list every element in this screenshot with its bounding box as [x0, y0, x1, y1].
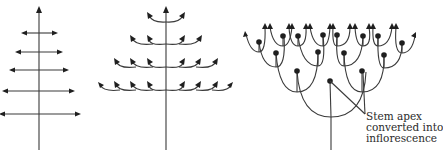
annotation-line-3: inflorescence [366, 133, 443, 144]
arrow-right-icon [75, 112, 81, 117]
apex-arrow-icon [36, 6, 42, 13]
arrow-right-icon [57, 50, 63, 55]
arrow-left-icon [21, 31, 27, 36]
branch-level-5 [0, 112, 81, 117]
leader-line [363, 73, 365, 114]
arrow-right-icon [52, 31, 58, 36]
arrow-icon [147, 12, 153, 19]
arrow-right-icon [63, 68, 69, 73]
root-arc [297, 71, 366, 117]
leader-line [330, 81, 365, 114]
arrow-left-icon [2, 89, 8, 94]
arrow-left-icon [15, 50, 21, 55]
apex-arrow-icon [163, 6, 169, 13]
diagram-branched-monopodial [98, 6, 233, 150]
annotation-label: Stem apex converted into inflorescence [366, 111, 443, 144]
arrow-right-icon [69, 89, 75, 94]
diagram-monopodial [0, 6, 81, 150]
arrow-left-icon [0, 112, 5, 117]
arrow-icon [243, 31, 248, 37]
arrow-left-icon [9, 68, 15, 73]
inflorescence-nodes [256, 32, 405, 84]
